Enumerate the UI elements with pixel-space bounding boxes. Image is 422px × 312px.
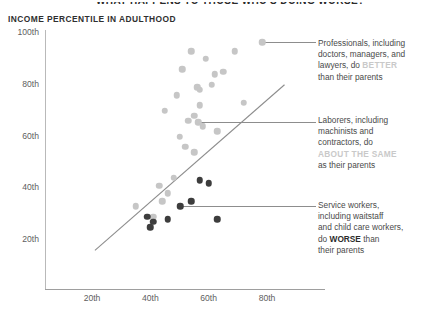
scatter-point bbox=[165, 190, 172, 197]
y-tick-text: 20th bbox=[22, 234, 39, 244]
annotation-line: Professionals, including bbox=[318, 38, 422, 49]
annotation-service-workers: Service workers, including waitstaff and… bbox=[318, 200, 422, 256]
leader-line-service-workers bbox=[180, 206, 316, 207]
page-title-cutoff: WHAT HAPPENS TO THOSE WHO'S DOING WORSE? bbox=[96, 0, 365, 6]
annotation-anchor-point bbox=[177, 203, 184, 210]
scatter-point bbox=[156, 182, 163, 189]
annotation-line: as their parents bbox=[318, 160, 422, 171]
annotation-anchor-point bbox=[259, 39, 266, 46]
x-tick-label: 60th bbox=[200, 293, 217, 303]
annotation-text: than bbox=[361, 234, 379, 244]
scatter-point bbox=[188, 48, 195, 55]
scatter-point bbox=[182, 144, 189, 151]
leader-line-professionals bbox=[262, 42, 316, 43]
scatter-point bbox=[197, 177, 204, 184]
chart-container: WHAT HAPPENS TO THOSE WHO'S DOING WORSE?… bbox=[0, 0, 422, 312]
scatter-point bbox=[170, 175, 177, 182]
scatter-point bbox=[197, 102, 204, 109]
annotation-line: Laborers, including bbox=[318, 115, 422, 126]
annotation-line: than their parents bbox=[318, 72, 422, 83]
scatter-point bbox=[188, 198, 195, 205]
scatter-point bbox=[185, 118, 192, 125]
annotation-line: doctors, managers, and bbox=[318, 49, 422, 60]
scatter-point bbox=[240, 100, 247, 107]
parity-reference-line bbox=[95, 85, 285, 251]
annotation-professionals: Professionals, including doctors, manage… bbox=[318, 38, 422, 83]
annotation-line: machinists and bbox=[318, 126, 422, 137]
y-tick-text: 80th bbox=[22, 79, 39, 89]
scatter-point bbox=[211, 71, 218, 78]
y-tick-text: 60th bbox=[22, 131, 39, 141]
x-tick-label: 80th bbox=[259, 293, 276, 303]
annotation-line: lawyers, do BETTER bbox=[318, 60, 422, 71]
scatter-point bbox=[159, 198, 166, 205]
scatter-point bbox=[191, 149, 198, 156]
annotation-line: including waitstaff bbox=[318, 211, 422, 222]
scatter-point bbox=[147, 224, 154, 231]
scatter-point bbox=[165, 216, 172, 223]
y-axis-line bbox=[45, 30, 46, 290]
annotation-emphasis: BETTER bbox=[362, 60, 397, 70]
scatter-point bbox=[203, 56, 210, 63]
scatter-point bbox=[232, 48, 239, 55]
scatter-point bbox=[208, 82, 215, 89]
x-tick-label: 40th bbox=[142, 293, 159, 303]
scatter-point bbox=[197, 87, 204, 94]
leader-line-laborers bbox=[198, 122, 316, 123]
annotation-line: Service workers, bbox=[318, 200, 422, 211]
scatter-point bbox=[179, 66, 186, 73]
scatter-point bbox=[176, 133, 183, 140]
y-tick-text: 40th bbox=[22, 182, 39, 192]
scatter-point bbox=[220, 69, 227, 76]
annotation-emphasis: WORSE bbox=[330, 234, 361, 244]
annotation-laborers: Laborers, including machinists and contr… bbox=[318, 115, 422, 171]
scatter-point bbox=[162, 107, 169, 114]
annotation-text: do bbox=[318, 234, 330, 244]
scatter-point bbox=[133, 203, 140, 210]
annotation-line: and child care workers, bbox=[318, 222, 422, 233]
annotation-line: do WORSE than bbox=[318, 234, 422, 245]
x-axis-line bbox=[45, 289, 325, 290]
annotation-line: their parents bbox=[318, 245, 422, 256]
scatter-point bbox=[214, 128, 221, 135]
x-tick-label: 20th bbox=[84, 293, 101, 303]
annotation-emphasis: ABOUT THE SAME bbox=[318, 149, 422, 160]
scatter-point bbox=[214, 216, 221, 223]
scatter-point bbox=[173, 92, 180, 99]
annotation-anchor-point bbox=[195, 119, 202, 126]
y-tick-text: 100th bbox=[17, 27, 39, 37]
annotation-text: lawyers, do bbox=[318, 60, 362, 70]
y-axis-title: INCOME PERCENTILE IN ADULTHOOD bbox=[8, 14, 176, 24]
scatter-point bbox=[205, 180, 212, 187]
annotation-line: contractors, do bbox=[318, 137, 422, 148]
